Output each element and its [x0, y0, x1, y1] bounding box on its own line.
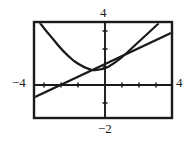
x-axis-max-label: 4	[176, 76, 183, 89]
plot-canvas	[0, 0, 190, 142]
x-axis-min-label: −4	[12, 76, 26, 89]
y-axis-max-label: 4	[100, 6, 107, 19]
y-axis-min-label: −2	[98, 122, 112, 135]
graph-figure: 4 −2 −4 4	[0, 0, 190, 142]
